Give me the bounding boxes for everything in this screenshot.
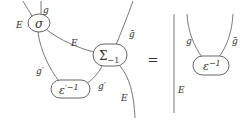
label-g-right: g [186,36,192,46]
wire-gbar-cup [219,14,233,57]
node-sigma-label: σ [35,17,44,31]
label-g-top: g [43,5,49,15]
wire-E-bottom-right [120,66,135,118]
label-g-prime-left: g′ [36,66,44,76]
label-E-bottom-right: E [120,93,128,103]
label-E-vertical: E [177,85,185,95]
label-gbar-top-right: ḡ [129,29,135,39]
label-E-top-left: E [15,20,23,30]
right-diagram: ε−1 E g ḡ [174,14,238,113]
label-E-middle: E [70,38,78,48]
left-diagram: σ Σ−1 ε′−1 E g E ḡ g′ g′ E [15,1,135,118]
label-gbar-right: ḡ [232,36,238,46]
string-diagram: σ Σ−1 ε′−1 E g E ḡ g′ g′ E = ε−1 [0,0,250,120]
label-g-prime-right: g′ [98,81,106,91]
equals-sign: = [148,52,159,67]
wire-E-top-left [23,1,32,16]
